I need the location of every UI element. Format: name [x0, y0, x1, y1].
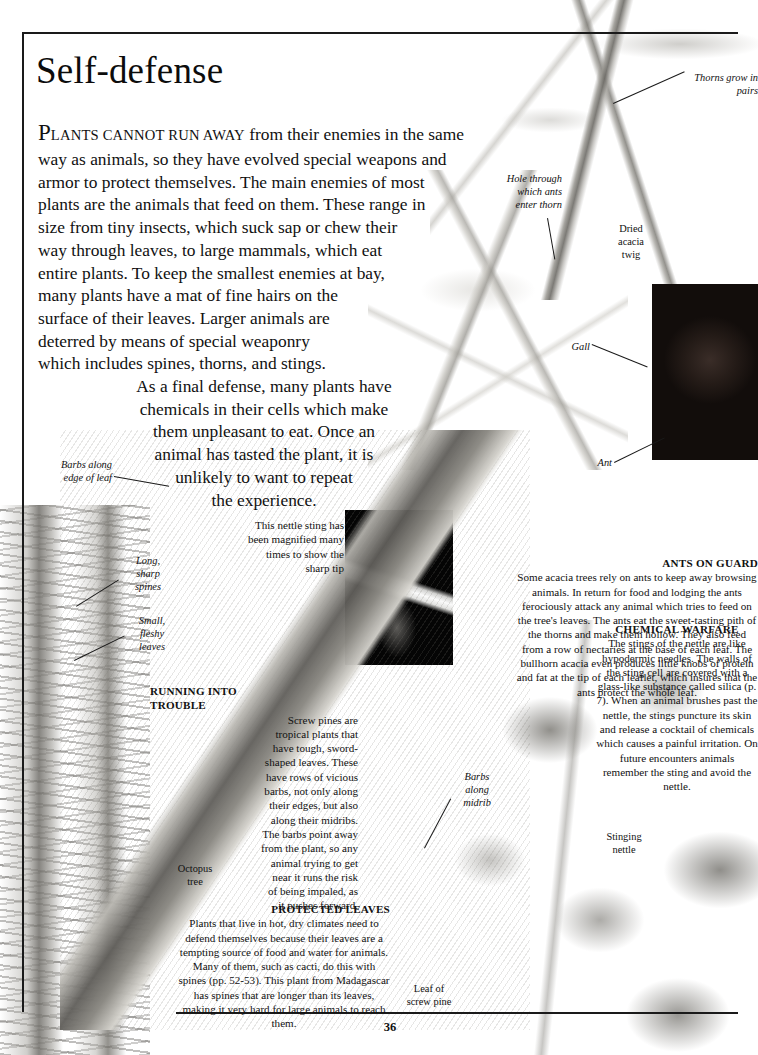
intro-line: size from tiny insects, which suck sap o… [38, 216, 490, 239]
leader-line-thorns-grow [613, 71, 685, 104]
intro-line: plants are the animals that feed on them… [38, 193, 490, 216]
intro-line: surface of their leaves. Larger animals … [38, 307, 490, 330]
label-barbs-along-edge-of-leaf: Barbs along edge of leaf [40, 458, 112, 484]
intro-line: deterred by means of special weaponry [38, 330, 490, 353]
callout-protected-leaves: PROTECTED LEAVES Plants that live in hot… [178, 902, 390, 1031]
label-thorns-grow-in-pairs: Thorns grow in pairs [688, 71, 758, 97]
intro-line: As a final defense, many plants have [38, 375, 490, 398]
intro-line: way as animals, so they have evolved spe… [38, 148, 490, 171]
leader-line-barbs-midrib [424, 799, 451, 849]
leader-line-small-leaves [74, 635, 125, 660]
callout-line: The barbs point away [150, 827, 358, 841]
callout-line: their edges, but also [150, 798, 358, 812]
label-long-sharp-spines: Long, sharp spines [126, 554, 170, 594]
callout-line: tropical plants that [150, 727, 358, 741]
page-title: Self-defense [36, 52, 223, 91]
page-number: 36 [370, 1020, 410, 1035]
label-leaf-of-screw-pine: Leaf of screw pine [402, 982, 456, 1008]
intro-line: the experience. [38, 489, 490, 512]
callout-line: shaped leaves. These [150, 755, 358, 769]
intro-line: many plants have a mat of fine hairs on … [38, 284, 490, 307]
intro-line-rest: from their enemies in the same [245, 124, 464, 144]
callout-line: barbs, not only along [150, 784, 358, 798]
callout-chemical-warfare: CHEMICAL WARFARE The stings of the nettl… [596, 622, 758, 794]
intro-smallcaps: LANTS CANNOT RUN AWAY [51, 127, 245, 143]
intro-line: armor to protect themselves. The main en… [38, 171, 490, 194]
intro-paragraph: PLANTS CANNOT RUN AWAY from their enemie… [38, 118, 490, 511]
callout-heading-line2: TROUBLE [150, 698, 358, 712]
page-rule-left [22, 32, 24, 1012]
label-octopus-tree: Octopus tree [172, 862, 218, 888]
callout-line: along their midribs. [150, 813, 358, 827]
caption-nettle-sting: This nettle sting has been magnified man… [240, 518, 344, 576]
callout-heading: PROTECTED LEAVES [178, 902, 390, 916]
page-rule-top [22, 32, 738, 34]
intro-line: them unpleasant to eat. Once an [38, 420, 490, 443]
photo-nettle-sting-micrograph [345, 510, 453, 665]
intro-line: which includes spines, thorns, and sting… [38, 352, 490, 375]
label-dried-acacia-twig: Dried acacia twig [608, 222, 654, 262]
callout-heading: ANTS ON GUARD [516, 556, 758, 570]
leader-line-ant [614, 437, 665, 462]
callout-line: Screw pines are [150, 713, 358, 727]
photo-gall-with-ant [652, 284, 758, 460]
intro-line: PLANTS CANNOT RUN AWAY from their enemie… [38, 118, 490, 148]
callout-line: from the plant, so any [150, 841, 358, 855]
callout-body: Plants that live in hot, dry climates ne… [178, 916, 390, 1030]
callout-line: have tough, sword- [150, 741, 358, 755]
label-barbs-along-midrib: Barbs along midrib [455, 770, 499, 810]
leader-line-long-spines [76, 580, 119, 607]
label-stinging-nettle: Stinging nettle [596, 830, 652, 856]
callout-body: The stings of the nettle are like hypode… [596, 636, 758, 793]
label-hole-through-which-ants-enter-thorn: Hole through which ants enter thorn [500, 172, 562, 212]
intro-line: entire plants. To keep the smallest enem… [38, 262, 490, 285]
label-small-fleshy-leaves: Small, fleshy leaves [130, 614, 174, 654]
callout-heading: CHEMICAL WARFARE [596, 622, 758, 636]
intro-line: way through leaves, to large mammals, wh… [38, 239, 490, 262]
label-gall: Gall [560, 340, 590, 353]
callout-line: have rows of vicious [150, 770, 358, 784]
intro-line: chemicals in their cells which make [38, 398, 490, 421]
book-page: Self-defense PLANTS CANNOT RUN AWAY from… [0, 0, 758, 1055]
intro-dropcap: P [38, 120, 51, 145]
leader-line-gall [592, 344, 648, 367]
callout-heading-line1: RUNNING INTO [150, 684, 358, 698]
label-ant: Ant [586, 456, 612, 469]
leader-line-hole-thorn [547, 218, 555, 260]
